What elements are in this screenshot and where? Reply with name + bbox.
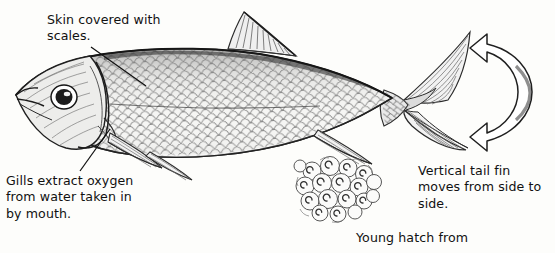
caption-gills-extract-oxygen: Gills extract oxygen from water taken in… [6,173,133,222]
caption-skin-covered-with-scales: Skin covered with scales. [47,12,161,45]
caption-young-hatch-from: Young hatch from [356,230,468,246]
anal-fin [314,130,372,164]
dorsal-fin [228,12,296,56]
figure-page: Skin covered with scales. Gills extract … [0,0,555,253]
fish-eye [51,85,77,109]
tail-motion-arrow [470,34,532,151]
caudal-tail-fin [404,32,470,150]
caption-vertical-tail-fin: Vertical tail fin moves from side to sid… [418,163,541,212]
egg-cluster [294,157,382,223]
fish-head [16,56,116,149]
